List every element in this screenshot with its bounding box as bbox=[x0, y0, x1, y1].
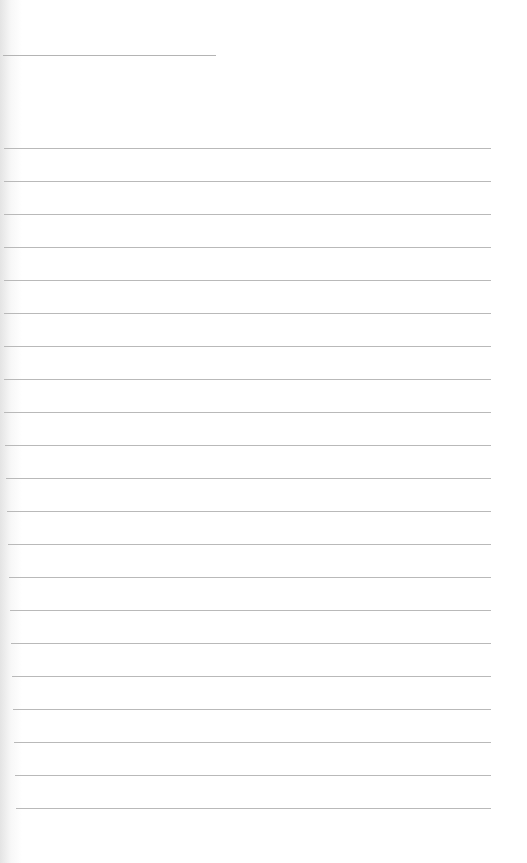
ruled-line bbox=[4, 412, 491, 413]
ruled-line bbox=[4, 280, 491, 281]
ruled-line bbox=[4, 247, 491, 248]
ruled-line bbox=[4, 148, 491, 149]
header-line bbox=[3, 55, 216, 56]
ruled-line bbox=[4, 313, 491, 314]
ruled-line bbox=[6, 478, 491, 479]
ruled-line bbox=[13, 709, 491, 710]
ruled-line bbox=[4, 181, 491, 182]
notepad-page bbox=[0, 0, 527, 863]
ruled-line bbox=[12, 676, 491, 677]
ruled-line bbox=[5, 445, 491, 446]
page-edge-shadow bbox=[0, 0, 22, 863]
ruled-line bbox=[16, 808, 491, 809]
ruled-line bbox=[8, 544, 491, 545]
ruled-line bbox=[14, 742, 491, 743]
ruled-line bbox=[11, 643, 491, 644]
ruled-line bbox=[9, 577, 491, 578]
ruled-line bbox=[15, 775, 491, 776]
ruled-line bbox=[4, 214, 491, 215]
ruled-line bbox=[4, 379, 491, 380]
ruled-line bbox=[7, 511, 491, 512]
ruled-line bbox=[10, 610, 491, 611]
ruled-line bbox=[4, 346, 491, 347]
